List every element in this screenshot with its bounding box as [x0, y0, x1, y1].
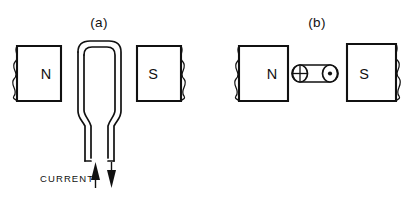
panel-a-south-pole: S — [137, 46, 185, 101]
north-pole-letter: N — [41, 66, 51, 82]
south-pole-letter: S — [148, 66, 158, 82]
out-of-page-dot — [328, 71, 332, 75]
current-out-of-page-icon — [323, 65, 338, 82]
north-pole-block — [239, 46, 288, 101]
wire-loop-inner-right — [84, 47, 115, 158]
north-pole-block — [17, 46, 61, 101]
current-label: CURRENT — [40, 173, 94, 184]
current-into-page-icon — [293, 65, 308, 82]
panel-a-label: (a) — [90, 15, 108, 30]
panel-b-rod — [292, 65, 338, 82]
panel-a-north-pole: N — [13, 46, 61, 101]
panel-b-label: (b) — [308, 15, 326, 30]
figure-drawing: N S — [0, 0, 418, 197]
north-pole-letter: N — [267, 66, 277, 82]
panel-b: N S — [235, 15, 401, 101]
panel-b-north-pole: N — [235, 46, 288, 101]
south-pole-letter: S — [359, 66, 369, 82]
figure-canvas: N S — [0, 0, 418, 197]
south-pole-block — [137, 46, 181, 101]
panel-b-south-pole: S — [347, 44, 400, 101]
panel-a: N S — [13, 15, 186, 188]
south-pole-block — [347, 44, 396, 101]
panel-a-wire-loop — [78, 41, 121, 161]
arrow-down-icon — [107, 170, 116, 188]
panel-a-current-arrows: CURRENT — [40, 162, 116, 188]
